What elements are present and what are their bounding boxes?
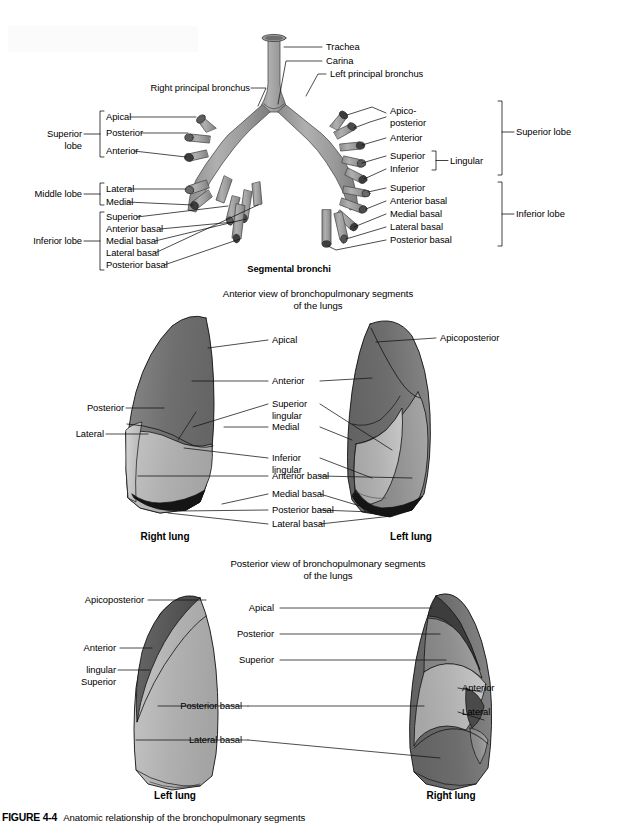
panel2-heading-line2: of the lungs [168,300,468,312]
posterior-left-lung-name: Left lung [120,790,230,801]
posterior-label-apicoposterior: Apicoposterior [46,594,144,605]
segment-left-medial-basal: Medial basal [390,208,442,219]
anterior-label-lateral-basal: Lateral basal [272,518,325,529]
figure-caption-number: FIGURE 4-4 [2,812,57,823]
posterior-label-superior-lingular-2: Superior [46,676,116,687]
label-left-principal-bronchus: Left principal bronchus [330,68,423,79]
posterior-label-anterior-right: Anterior [462,682,494,693]
group-superior-lobe-right-line2: lobe [14,140,82,151]
posterior-left-lung-illustration [134,596,218,790]
segment-left-apicoposterior-line1: Apico- [390,105,416,116]
segment-left-inf-superior: Superior [390,182,425,193]
figure-caption: FIGURE 4-4Anatomic relationship of the b… [2,812,305,823]
posterior-right-lung-name: Right lung [396,790,506,801]
segment-right-lateral-basal: Lateral basal [106,247,159,258]
group-inferior-lobe-left: Inferior lobe [516,208,565,219]
posterior-label-posterior-basal: Posterior basal [140,700,242,711]
anterior-label-inferior-lingular-1: Inferior [272,452,301,463]
posterior-label-lateral-right: Lateral [462,706,490,717]
anterior-right-lung-name: Right lung [110,531,220,542]
posterior-label-superior-lingular-1: lingular [46,664,116,675]
segment-right-apical: Apical [106,111,131,122]
group-inferior-lobe-right: Inferior lobe [2,235,82,246]
anterior-left-lung-name: Left lung [356,531,466,542]
anterior-label-apical: Apical [272,334,297,345]
panel1-title: Segmental bronchi [204,263,374,274]
anterior-label-superior-lingular-2: lingular [272,410,302,421]
group-superior-lobe-right: Superior [14,128,82,139]
segment-lingular-superior: Superior [390,150,425,161]
anterior-right-lung-illustration [126,316,214,513]
group-lingular: Lingular [450,155,483,166]
panel3-heading-line1: Posterior view of bronchopulmonary segme… [182,558,474,570]
segment-left-lateral-basal: Lateral basal [390,221,443,232]
anterior-label-medial-basal: Medial basal [272,488,324,499]
anterior-label-lateral: Lateral [40,428,104,439]
segment-right-anterior-basal: Anterior basal [106,223,163,234]
posterior-label-posterior: Posterior [196,628,274,639]
posterior-label-apical: Apical [196,602,274,613]
posterior-label-superior: Superior [196,654,274,665]
posterior-label-lateral-basal: Lateral basal [146,734,242,745]
label-carina: Carina [326,55,353,66]
posterior-label-anterior-left: Anterior [46,642,116,653]
group-middle-lobe: Middle lobe [4,188,82,199]
segment-lingular-inferior: Inferior [390,163,419,174]
label-trachea: Trachea [326,41,360,52]
segment-right-anterior: Anterior [106,145,138,156]
anterior-label-apicoposterior: Apicoposterior [440,332,499,343]
segment-right-inf-superior: Superior [106,211,141,222]
anterior-label-medial: Medial [272,421,299,432]
label-right-principal-bronchus: Right principal bronchus [104,82,250,93]
figure-bronchopulmonary-segments: Trachea Carina Left principal bronchus R… [0,0,636,824]
anterior-label-anterior-basal: Anterior basal [272,470,329,481]
figure-caption-text: Anatomic relationship of the bronchopulm… [63,812,305,823]
segment-left-posterior-basal: Posterior basal [390,234,452,245]
segment-left-anterior: Anterior [390,132,422,143]
segment-right-posterior-basal: Posterior basal [106,259,168,270]
anterior-label-posterior: Posterior [40,402,124,413]
segment-right-posterior: Posterior [106,127,143,138]
group-superior-lobe-left: Superior lobe [516,126,571,137]
segment-left-anterior-basal: Anterior basal [390,195,447,206]
anterior-label-posterior-basal: Posterior basal [272,504,334,515]
anterior-label-anterior: Anterior [272,375,304,386]
segment-middle-lateral: Lateral [106,183,134,194]
anterior-label-superior-lingular-1: Superior [272,398,307,409]
panel3-heading-line2: of the lungs [182,570,474,582]
anterior-left-lung-illustration [348,321,431,517]
segment-left-apicoposterior-line2: posterior [390,117,426,128]
segment-right-medial-basal: Medial basal [106,235,158,246]
segment-middle-medial: Medial [106,196,133,207]
panel2-heading-line1: Anterior view of bronchopulmonary segmen… [168,288,468,300]
